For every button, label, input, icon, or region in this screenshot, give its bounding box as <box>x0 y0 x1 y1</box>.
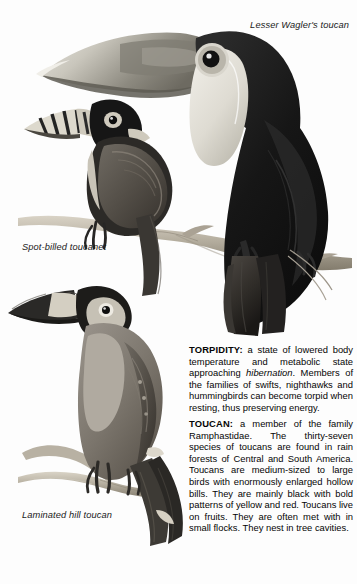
caption-spot-billed-toucanet: Spot-billed toucanet <box>22 242 106 252</box>
spot-billed-toucanet-illustration <box>24 100 172 296</box>
laminated-hill-toucan-illustration <box>8 286 183 546</box>
entry-torpidity: TORPIDITY: a state of lowered body tempe… <box>189 344 353 413</box>
definitions-column: TORPIDITY: a state of lowered body tempe… <box>189 344 353 534</box>
entry-toucan: TOUCAN: a member of the family Ramphasti… <box>189 418 353 533</box>
entry-italic-hibernation: hibernation <box>246 367 292 378</box>
caption-lesser-waglers-toucan: Lesser Wagler's toucan <box>250 20 349 30</box>
entry-body-toucan: a member of the family Ramphastidae. The… <box>189 418 353 533</box>
entry-term-torpidity: TORPIDITY <box>189 344 240 355</box>
encyclopedia-page: Lesser Wagler's toucan Spot-billed touca… <box>0 0 357 584</box>
entry-term-toucan: TOUCAN <box>189 418 230 429</box>
caption-laminated-hill-toucan: Laminated hill toucan <box>22 510 112 520</box>
